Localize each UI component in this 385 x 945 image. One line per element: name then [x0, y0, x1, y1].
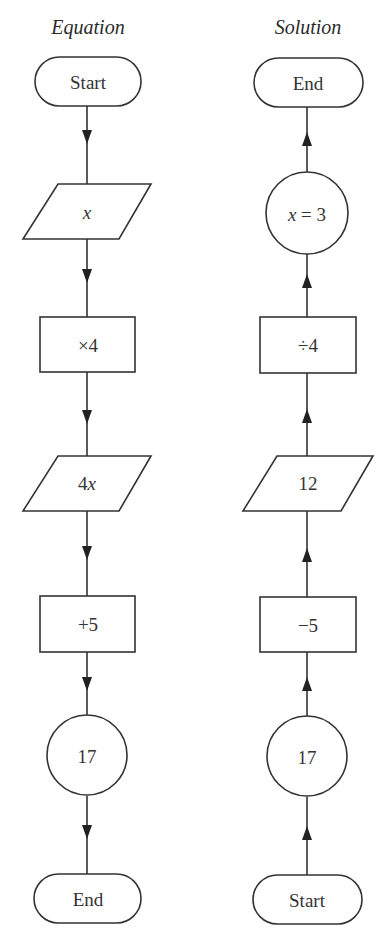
process-divide-4: ÷4 — [260, 317, 356, 373]
arrow-up-icon — [302, 548, 312, 562]
solution-column: Solution End x = 3 ÷4 — [243, 16, 373, 924]
process-add-5: +5 — [40, 596, 135, 652]
svg-text:End: End — [73, 889, 104, 910]
result-circle-17: 17 — [47, 715, 127, 795]
svg-text:Start: Start — [289, 890, 326, 911]
equation-title: Equation — [50, 16, 124, 39]
result-circle-x-equals-3: x = 3 — [266, 172, 348, 254]
arrow-up-icon — [302, 132, 312, 146]
svg-text:x: x — [82, 202, 92, 223]
arrow-down-icon — [82, 410, 92, 424]
end-terminal: End — [254, 58, 363, 107]
svg-text:×4: ×4 — [78, 335, 99, 356]
data-parallelogram-4x: 4x — [23, 456, 151, 511]
data-parallelogram-12: 12 — [243, 456, 373, 511]
start-terminal: Start — [253, 875, 362, 924]
svg-text:+5: +5 — [78, 614, 98, 635]
arrow-down-icon — [82, 677, 92, 691]
svg-text:End: End — [293, 73, 324, 94]
arrow-up-icon — [302, 409, 312, 423]
start-terminal: Start — [35, 57, 141, 106]
flowchart-diagram: Equation Start x ×4 — [0, 0, 385, 945]
arrow-up-icon — [302, 826, 312, 840]
svg-text:÷4: ÷4 — [298, 335, 318, 356]
arrow-up-icon — [302, 677, 312, 691]
process-subtract-5: −5 — [260, 597, 356, 652]
arrow-down-icon — [82, 825, 92, 839]
solution-title: Solution — [275, 16, 342, 38]
svg-text:−5: −5 — [298, 615, 318, 636]
arrow-down-icon — [82, 130, 92, 144]
end-terminal: End — [34, 874, 141, 923]
svg-text:12: 12 — [299, 473, 318, 494]
input-parallelogram-x: x — [23, 184, 151, 239]
arrow-up-icon — [302, 274, 312, 288]
svg-text:Start: Start — [70, 72, 107, 93]
svg-text:17: 17 — [298, 747, 317, 768]
svg-text:x = 3: x = 3 — [287, 204, 326, 225]
svg-text:17: 17 — [78, 746, 97, 767]
input-circle-17: 17 — [267, 716, 347, 796]
arrow-down-icon — [82, 546, 92, 560]
svg-text:4x: 4x — [78, 473, 97, 494]
process-multiply-4: ×4 — [40, 317, 135, 372]
equation-column: Equation Start x ×4 — [23, 16, 151, 923]
arrow-down-icon — [82, 269, 92, 283]
